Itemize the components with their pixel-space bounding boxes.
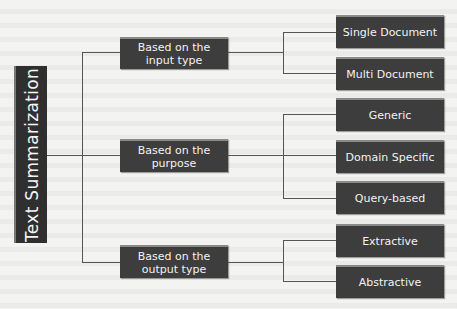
category-label-line1: Based on the <box>138 41 211 54</box>
leaf-domain-specific: Domain Specific <box>336 140 444 173</box>
connector-generic <box>283 114 336 115</box>
leaf-label: Extractive <box>362 235 418 248</box>
connector-single <box>283 32 336 33</box>
connector-extractive <box>283 240 336 241</box>
connector-input-vertical <box>283 32 284 73</box>
connector-query <box>283 198 336 199</box>
category-label-line2: output type <box>138 263 211 276</box>
connector-output-vertical <box>283 240 284 281</box>
root-label: Text Summarization <box>22 68 42 242</box>
leaf-label: Generic <box>369 109 412 122</box>
leaf-label: Abstractive <box>359 276 422 289</box>
leaf-label: Multi Document <box>346 68 433 81</box>
category-input-type: Based on theinput type <box>120 37 228 69</box>
connector-trunk <box>82 52 83 263</box>
leaf-single-document: Single Document <box>336 15 444 48</box>
leaf-multi-document: Multi Document <box>336 57 444 90</box>
category-output-type: Based on theoutput type <box>120 245 228 278</box>
category-label-line2: purpose <box>138 157 211 170</box>
leaf-label: Query-based <box>355 192 425 205</box>
leaf-extractive: Extractive <box>336 224 444 257</box>
leaf-query-based: Query-based <box>336 181 444 214</box>
connector-input <box>82 52 120 53</box>
category-label-line1: Based on the <box>138 144 211 157</box>
connector-output <box>82 262 120 263</box>
leaf-label: Single Document <box>343 26 437 39</box>
connector-output-out <box>228 262 283 263</box>
connector-purpose <box>82 155 120 156</box>
leaf-abstractive: Abstractive <box>336 265 444 298</box>
leaf-label: Domain Specific <box>346 151 435 164</box>
leaf-generic: Generic <box>336 98 444 131</box>
connector-multi <box>283 73 336 74</box>
root-node: Text Summarization <box>14 66 47 243</box>
connector-purpose-out <box>228 155 336 156</box>
category-purpose: Based on thepurpose <box>120 139 228 172</box>
category-label-line2: input type <box>138 54 211 67</box>
category-label-line1: Based on the <box>138 250 211 263</box>
connector-input-out <box>228 52 283 53</box>
connector-purpose-vertical <box>283 114 284 198</box>
connector-root <box>47 155 82 156</box>
connector-abstractive <box>283 281 336 282</box>
